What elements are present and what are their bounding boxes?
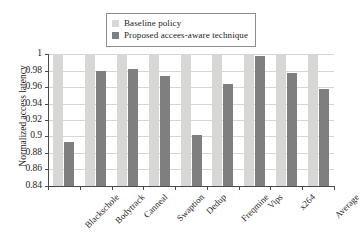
x-axis-label: Blackschole	[83, 192, 121, 230]
y-tick-label: 0.88	[2, 148, 42, 158]
y-tick-mark	[45, 87, 48, 88]
y-axis-line	[48, 54, 49, 186]
x-axis-label: Freqmine	[239, 192, 270, 223]
chart-legend: Baseline policy Proposed accees-aware te…	[106, 13, 256, 47]
bar-proposed	[128, 69, 138, 186]
bar-group	[85, 54, 106, 186]
y-tick-mark	[45, 71, 48, 72]
x-axis-label: Vips	[265, 192, 284, 211]
y-tick-label: 1	[2, 49, 42, 59]
legend-label-proposed: Proposed accees-aware technique	[124, 31, 248, 40]
y-tick-mark	[45, 120, 48, 121]
bar-baseline	[212, 54, 222, 186]
bar-baseline	[53, 54, 63, 186]
x-axis-label: Swaption	[175, 192, 206, 223]
legend-item-proposed: Proposed accees-aware technique	[112, 30, 248, 41]
y-tick-mark	[45, 136, 48, 137]
bar-baseline	[276, 54, 286, 186]
bar-proposed	[255, 56, 265, 186]
bar-baseline	[149, 54, 159, 186]
bar-group	[212, 54, 233, 186]
bar-proposed	[96, 71, 106, 187]
x-tick-mark	[334, 186, 335, 190]
plot-area: 0.840.860.880.90.920.940.960.981	[48, 54, 334, 186]
bar-proposed	[64, 142, 74, 186]
y-tick-label: 0.92	[2, 115, 42, 125]
bar-baseline	[85, 54, 95, 186]
x-axis-labels: BlackscholeBodytrackCannealSwaptionDedup…	[48, 190, 334, 242]
x-axis-label: x264	[298, 192, 318, 212]
x-axis-label: Canneal	[142, 192, 170, 220]
y-tick-mark	[45, 54, 48, 55]
legend-swatch-proposed	[112, 32, 119, 39]
bar-group	[149, 54, 170, 186]
bar-group	[276, 54, 297, 186]
bar-proposed	[192, 135, 202, 186]
bar-baseline	[308, 54, 318, 186]
x-axis-label: Dedup	[204, 192, 228, 216]
x-axis-label: Average	[333, 192, 361, 220]
bar-group	[53, 54, 74, 186]
y-tick-label: 0.96	[2, 82, 42, 92]
bar-group	[117, 54, 138, 186]
bar-proposed	[287, 73, 297, 186]
bar-group	[181, 54, 202, 186]
y-tick-label: 0.86	[2, 164, 42, 174]
bar-proposed	[223, 84, 233, 186]
y-tick-label: 0.84	[2, 181, 42, 191]
x-axis-line	[48, 186, 334, 187]
y-tick-mark	[45, 153, 48, 154]
bar-proposed	[319, 89, 329, 186]
bar-baseline	[181, 54, 191, 186]
legend-swatch-baseline	[112, 20, 119, 27]
y-tick-label: 0.98	[2, 66, 42, 76]
bar-baseline	[117, 54, 127, 186]
y-tick-label: 0.94	[2, 99, 42, 109]
bar-baseline	[244, 54, 254, 186]
y-tick-label: 0.9	[2, 131, 42, 141]
y-tick-mark	[45, 104, 48, 105]
y-tick-mark	[45, 169, 48, 170]
bar-group	[308, 54, 329, 186]
bar-proposed	[160, 76, 170, 186]
legend-item-baseline: Baseline policy	[112, 18, 248, 29]
legend-label-baseline: Baseline policy	[124, 19, 181, 28]
bar-group	[244, 54, 265, 186]
